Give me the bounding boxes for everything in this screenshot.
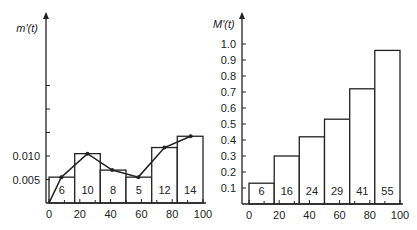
y-tick-label: 0.010 — [12, 150, 40, 162]
y-tick-label: 0.6 — [221, 102, 236, 114]
y-tick-label: 0.3 — [221, 150, 236, 162]
x-tick-label: 40 — [104, 208, 116, 220]
y-axis-arrow-icon — [239, 12, 245, 19]
data-point — [110, 168, 114, 172]
bar-count-label: 12 — [158, 184, 170, 196]
data-point — [189, 134, 193, 138]
x-tick-label: 20 — [273, 209, 285, 221]
y-tick-label: 0.005 — [12, 174, 40, 186]
bar-count-label: 16 — [281, 185, 293, 197]
bar-count-label: 6 — [59, 184, 65, 196]
bar-count-label: 41 — [356, 185, 368, 197]
bar-count-label: 10 — [81, 184, 93, 196]
histogram-bar — [375, 50, 400, 204]
y-tick-label: 0.2 — [221, 166, 236, 178]
data-point — [136, 175, 140, 179]
bar-count-label: 8 — [110, 184, 116, 196]
x-tick-label: 20 — [74, 208, 86, 220]
x-tick-label: 80 — [166, 208, 178, 220]
x-tick-label: 100 — [391, 209, 409, 221]
chart-canvas: 6108512140.0050.010020406080100m'(t)6162… — [0, 0, 417, 230]
data-point — [163, 146, 167, 150]
x-tick-label: 100 — [194, 208, 212, 220]
data-point — [59, 175, 63, 179]
y-axis-arrow-icon — [43, 12, 49, 19]
x-tick-label: 60 — [333, 209, 345, 221]
x-tick-label: 40 — [303, 209, 315, 221]
y-axis-label: M'(t) — [213, 18, 235, 30]
chart-2: 616242941550.10.20.30.40.50.60.70.80.91.… — [213, 12, 409, 221]
y-tick-label: 0.9 — [221, 54, 236, 66]
y-axis-label: m'(t) — [16, 22, 38, 34]
y-tick-label: 0.7 — [221, 86, 236, 98]
chart-1: 6108512140.0050.010020406080100m'(t) — [12, 12, 212, 220]
data-point — [86, 152, 90, 156]
bar-count-label: 24 — [306, 185, 318, 197]
y-tick-label: 0.5 — [221, 118, 236, 130]
bar-count-label: 14 — [184, 184, 196, 196]
y-tick-label: 0.4 — [221, 134, 236, 146]
bar-count-label: 55 — [381, 185, 393, 197]
y-tick-label: 0.8 — [221, 70, 236, 82]
y-tick-label: 0.1 — [221, 182, 236, 194]
y-tick-label: 1.0 — [221, 38, 236, 50]
x-tick-label: 60 — [135, 208, 147, 220]
bar-count-label: 5 — [136, 184, 142, 196]
bar-count-label: 6 — [259, 185, 265, 197]
bar-count-label: 29 — [331, 185, 343, 197]
x-tick-label: 0 — [46, 208, 52, 220]
x-tick-label: 0 — [246, 209, 252, 221]
x-tick-label: 80 — [364, 209, 376, 221]
